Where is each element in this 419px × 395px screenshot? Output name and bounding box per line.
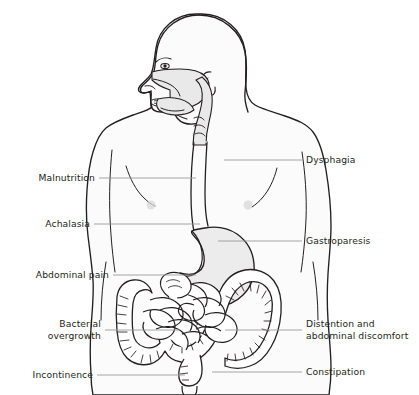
- duodenum: [160, 272, 191, 298]
- duodenum-loop: [160, 272, 191, 298]
- eye-pupil: [163, 64, 166, 67]
- right-nipple: [244, 201, 253, 210]
- diagram-canvas: Malnutrition Achalasia Abdominal pain Ba…: [0, 0, 419, 395]
- left-nipple: [147, 201, 156, 210]
- label-dysphagia: Dysphagia: [306, 154, 411, 166]
- label-incontinence: Incontinence: [6, 369, 93, 381]
- label-achalasia: Achalasia: [10, 218, 90, 230]
- label-malnutrition: Malnutrition: [10, 172, 95, 184]
- label-constipation: Constipation: [306, 366, 411, 378]
- label-abdominal-pain: Abdominal pain: [6, 269, 109, 281]
- label-gastroparesis: Gastroparesis: [306, 235, 411, 247]
- label-bacterial-overgrowth: Bacterial overgrowth: [10, 318, 101, 341]
- label-distention: Distention and abdominal discomfort: [306, 318, 416, 341]
